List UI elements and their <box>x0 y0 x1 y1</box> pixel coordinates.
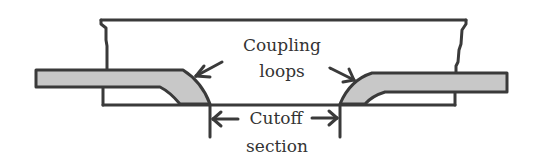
coupling-loops-label-line1: Coupling <box>222 37 342 54</box>
coupling-loops-label-line2: loops <box>222 63 342 80</box>
left-coupling-arrow <box>196 62 222 77</box>
right-coupling-probe <box>340 73 507 104</box>
cutoff-waveguide-diagram: Coupling loops Cutoff section <box>0 0 533 166</box>
cutoff-section-label-line2: section <box>222 138 332 155</box>
left-coupling-probe <box>36 70 210 104</box>
cutoff-section-label-line1: Cutoff <box>228 110 324 127</box>
